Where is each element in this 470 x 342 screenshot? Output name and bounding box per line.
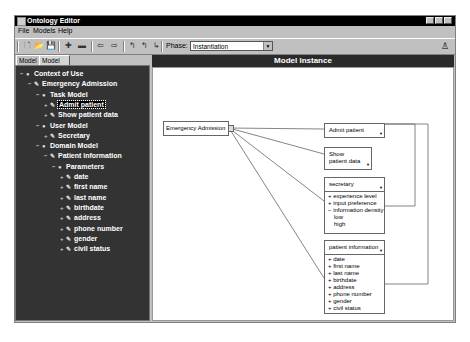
tree-node[interactable]: −●Context of Use [20,69,83,79]
ontology-tree[interactable]: −●Context of Use−✎Emergency Admission−●T… [15,65,150,321]
save-icon[interactable]: 💾 [46,41,56,51]
toolbar-separator [58,41,60,52]
toolbar-grip [17,41,19,52]
context-help-icon[interactable]: ♙ [441,41,449,51]
instance-icon: ✎ [66,245,74,254]
instance-icon: ✎ [66,183,74,192]
tree-node[interactable]: +✎Admit patient [44,100,105,110]
attribute-item[interactable]: + gender [328,298,381,305]
maximize-button[interactable] [435,17,443,24]
model-instance-header: Model Instance [152,55,454,67]
tab-model[interactable]: Model [16,55,40,65]
node-emergency-admission[interactable]: Emergency Admission [163,121,229,136]
arrow-right-icon[interactable]: ⇨ [109,41,119,51]
link-icon[interactable]: ↳ [151,41,161,51]
tree-node[interactable]: −●Task Model [36,90,88,100]
node-show-patient-data[interactable]: Show patient data▼ [324,147,372,170]
attribute-value[interactable]: high [328,221,381,228]
menu-models[interactable]: Models [33,26,56,36]
instance-icon: ✎ [66,235,74,244]
tree-node[interactable]: +✎gender [60,234,97,244]
menu-help[interactable]: Help [58,26,72,36]
tree-node-label: Parameters [66,163,104,170]
tree-node-label: date [74,173,88,180]
window-title: Ontology Editor [27,16,80,26]
attribute-item[interactable]: + experience level [328,193,381,200]
tree-node[interactable]: +✎date [60,172,88,182]
tree-node[interactable]: +✎address [60,213,101,223]
phase-select[interactable]: Instantiation ▼ [190,41,273,51]
attribute-item[interactable]: + input preference [328,200,381,207]
connector-port[interactable] [228,125,234,132]
category-icon: ● [26,70,34,79]
tree-node-label: User Model [50,122,88,129]
phase-value: Instantiation [193,43,228,50]
tree-node[interactable]: −●Parameters [52,162,104,172]
tree-node-label: Admit patient [58,101,105,108]
node-patient-information[interactable]: patient information▼ + date + first name… [324,240,385,314]
connector-lines [153,68,453,320]
attribute-item[interactable]: − information density [328,207,381,214]
tree-node-label: first name [74,183,107,190]
tree-node-label: Show patient data [58,111,118,118]
tree-node[interactable]: −✎Emergency Admission [28,79,117,89]
attribute-list: + date + first name + last name + birthd… [325,254,384,313]
category-icon: ● [58,163,66,172]
tree-node[interactable]: +✎first name [60,182,107,192]
dropdown-icon[interactable]: ▼ [366,163,370,167]
tree-node[interactable]: −●Domain Model [36,141,98,151]
remove-icon[interactable]: ▬ [77,41,87,51]
node-title: Emergency Admission [164,122,228,135]
attribute-item[interactable]: + phone number [328,291,381,298]
ontology-editor-window: Ontology Editor File Models Help 🗋 📂 💾 ✚… [14,15,456,323]
tree-node[interactable]: +✎Secretary [44,131,90,141]
instance-icon: ✎ [66,204,74,213]
tree-node[interactable]: +✎phone number [60,224,123,234]
attribute-item[interactable]: + civil status [328,305,381,312]
tree-node-label: address [74,214,101,221]
tree-node[interactable]: +✎Show patient data [44,110,118,120]
tree-node[interactable]: +✎civil status [60,244,110,254]
tree-node[interactable]: −✎Patient information [44,151,122,161]
category-icon: ● [42,91,50,100]
node-title: Admit patient [329,127,364,133]
link-icon[interactable]: ↰ [127,41,137,51]
node-title: Show patient data [329,151,360,164]
dropdown-icon[interactable]: ▼ [379,249,383,253]
attribute-item[interactable]: + address [328,284,381,291]
tree-node[interactable]: +✎birthdate [60,203,104,213]
attribute-item[interactable]: + birthdate [328,277,381,284]
tree-node[interactable]: −●User Model [36,121,88,131]
link-icon[interactable]: ↰ [139,41,149,51]
tree-node[interactable]: +✎last name [60,193,106,203]
attribute-item[interactable]: + date [328,256,381,263]
instance-icon: ✎ [34,80,42,89]
node-secretary[interactable]: secretary▼ + experience level + input pr… [324,177,385,234]
new-file-icon[interactable]: 🗋 [22,41,32,51]
dropdown-icon[interactable]: ▼ [379,186,383,190]
tab-model-instance[interactable]: Model Instance [39,55,70,65]
arrow-left-icon[interactable]: ⇦ [95,41,105,51]
title-bar[interactable]: Ontology Editor [15,16,455,26]
close-button[interactable] [444,17,452,24]
instance-icon: ✎ [50,111,58,120]
dropdown-icon[interactable]: ▼ [379,132,383,136]
tree-node-label: last name [74,194,106,201]
tree-node-label: gender [74,235,97,242]
attribute-value[interactable]: low [328,214,381,221]
chevron-down-icon[interactable]: ▼ [263,42,272,50]
instance-icon: ✎ [66,194,74,203]
tree-node-label: Secretary [58,132,90,139]
minimize-button[interactable] [426,17,434,24]
attribute-item[interactable]: + last name [328,270,381,277]
add-icon[interactable]: ✚ [63,41,73,51]
tree-node-label: civil status [74,245,110,252]
model-instance-canvas[interactable]: Emergency Admission Admit patient▼ Show … [152,67,454,321]
node-admit-patient[interactable]: Admit patient▼ [324,123,385,138]
toolbar-separator [91,41,93,52]
tree-node-label: Task Model [50,91,88,98]
menu-file[interactable]: File [18,26,29,36]
tree-node-label: Patient information [58,152,122,159]
attribute-item[interactable]: + first name [328,263,381,270]
open-folder-icon[interactable]: 📂 [34,41,44,51]
